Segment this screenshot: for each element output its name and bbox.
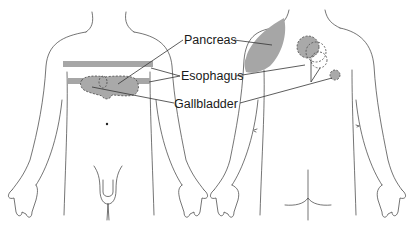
label-esophagus: Esophagus bbox=[181, 69, 244, 83]
navel bbox=[106, 123, 108, 125]
label-gallbladder: Gallbladder bbox=[174, 97, 238, 111]
pancreas-area-front bbox=[81, 76, 139, 99]
front-pain-areas bbox=[63, 61, 153, 99]
esophagus-area-back-1 bbox=[297, 36, 319, 58]
referred-pain-diagram: Pancreas Esophagus Gallbladder bbox=[0, 0, 409, 227]
back-pain-areas bbox=[245, 18, 341, 80]
label-pancreas: Pancreas bbox=[184, 33, 237, 47]
pancreas-area-back bbox=[245, 18, 286, 73]
esophagus-band-upper bbox=[63, 61, 153, 67]
